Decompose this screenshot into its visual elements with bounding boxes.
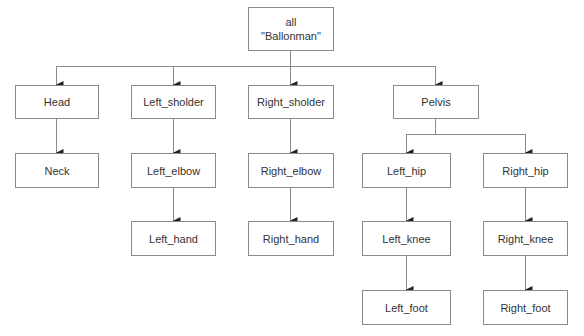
node-pelvis: Pelvis	[393, 85, 479, 119]
node-left-foot: Left_foot	[362, 290, 451, 325]
node-all: all "Ballonman"	[248, 7, 334, 51]
node-right-sholder: Right_sholder	[248, 85, 334, 119]
node-head: Head	[15, 85, 99, 119]
node-right-elbow: Right_elbow	[248, 153, 334, 188]
node-all-label: all	[285, 15, 296, 29]
node-all-sublabel: "Ballonman"	[261, 29, 321, 43]
node-left-knee: Left_knee	[362, 221, 451, 256]
node-left-elbow: Left_elbow	[131, 153, 216, 188]
node-right-foot: Right_foot	[483, 290, 568, 325]
node-right-hip: Right_hip	[483, 153, 568, 188]
node-neck: Neck	[15, 153, 99, 188]
node-right-hand: Right_hand	[248, 221, 334, 256]
node-left-hip: Left_hip	[362, 153, 451, 188]
hierarchy-diagram: all "Ballonman" Head Left_sholder Right_…	[0, 0, 584, 336]
node-left-hand: Left_hand	[131, 221, 216, 256]
node-right-knee: Right_knee	[483, 221, 568, 256]
node-left-sholder: Left_sholder	[131, 85, 216, 119]
